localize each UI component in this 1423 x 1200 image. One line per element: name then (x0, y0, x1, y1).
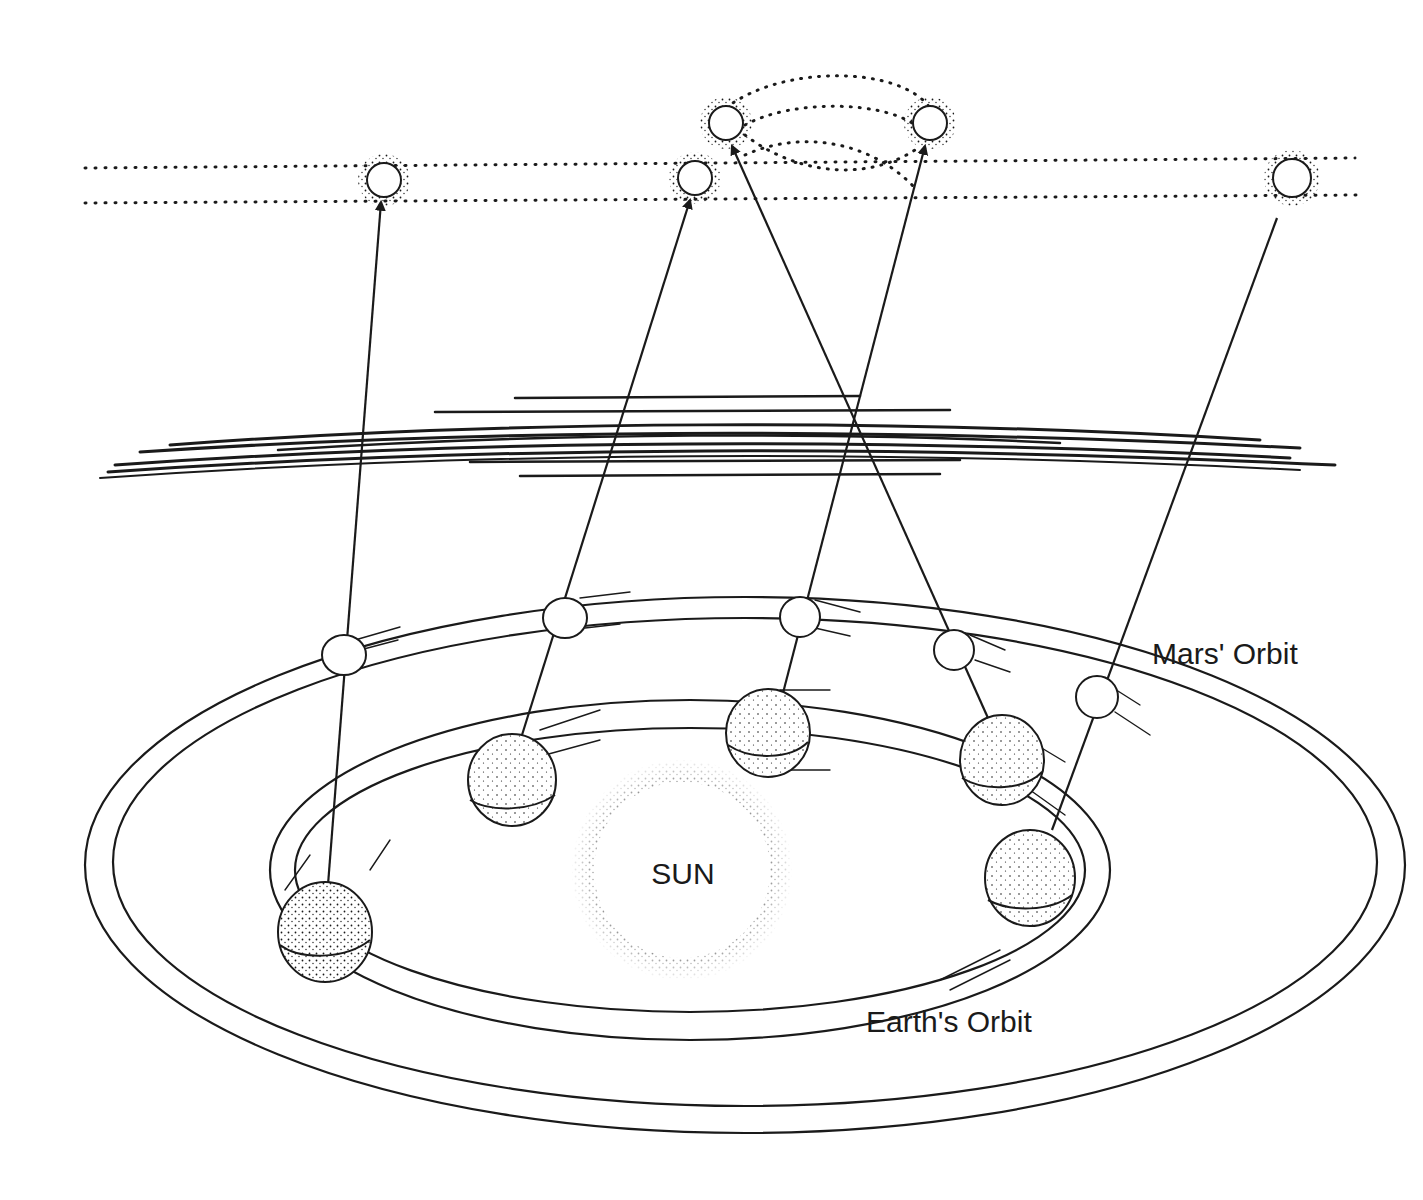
mars-retrograde-diagram: SUN (0, 0, 1423, 1200)
mars-position-2 (543, 598, 587, 638)
sun-label: SUN (651, 857, 714, 890)
retrograde-loop-inner (745, 106, 915, 125)
sight-line-2 (522, 200, 690, 735)
mars-position-4 (934, 630, 974, 670)
sky-band (100, 396, 1335, 478)
retrograde-loop-cross-b (745, 142, 915, 188)
earth-position-2 (468, 734, 556, 826)
sky-position-4 (904, 97, 956, 149)
sky-position-3 (700, 97, 752, 149)
earth-position-5 (985, 830, 1075, 926)
sun: SUN (570, 758, 794, 982)
sky-position-5 (1264, 150, 1320, 206)
sky-track-upper (85, 158, 1355, 168)
retrograde-loop-outer (726, 76, 930, 108)
earth-position-4 (960, 715, 1044, 805)
sky-positions (358, 97, 1320, 206)
retrograde-loop-cross-a (745, 135, 915, 170)
earth-orbit-label: Earth's Orbit (866, 1005, 1032, 1038)
mars-position-5 (1076, 676, 1118, 718)
sky-position-2 (669, 152, 721, 204)
sight-line-5 (1052, 218, 1277, 830)
mars-position-1 (322, 635, 366, 675)
earth-position-3 (726, 689, 810, 777)
mars-orbit-label: Mars' Orbit (1152, 637, 1298, 670)
sky-position-1 (358, 154, 410, 206)
earth-position-1 (278, 882, 372, 982)
sky-track-lower (85, 195, 1360, 203)
sight-line-1 (328, 202, 381, 885)
mars-position-3 (780, 597, 820, 637)
